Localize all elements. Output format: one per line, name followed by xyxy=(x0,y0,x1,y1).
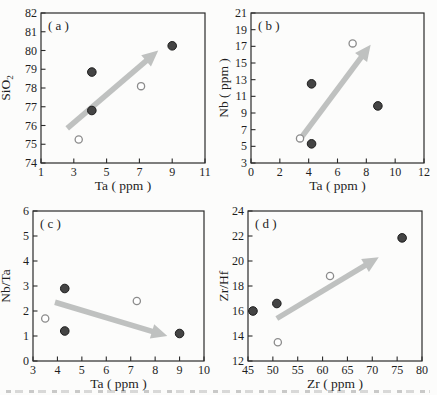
y-tick-label: 3 xyxy=(23,279,29,293)
panel-letter-label: ( b ) xyxy=(258,18,280,33)
x-tick-label: 60 xyxy=(317,363,329,377)
y-tick-label: 77 xyxy=(25,100,37,114)
data-point-open xyxy=(274,339,281,346)
data-point-open xyxy=(137,83,144,90)
x-tick-label: 8 xyxy=(363,165,369,179)
panel-letter-label: ( d ) xyxy=(255,216,277,231)
data-point-filled xyxy=(88,68,97,77)
y-tick-label: 11 xyxy=(235,89,247,103)
y-tick-label: 6 xyxy=(23,204,29,218)
y-tick-label: 1 xyxy=(23,329,29,343)
x-tick-label: 50 xyxy=(267,363,279,377)
x-tick-label: 65 xyxy=(341,363,353,377)
y-tick-label: 82 xyxy=(25,6,37,20)
x-axis-label: Ta ( ppm ) xyxy=(90,376,146,391)
plot-frame xyxy=(33,211,204,361)
cropped-caption-fragment xyxy=(6,390,430,393)
y-tick-label: 9 xyxy=(241,106,247,120)
x-tick-label: 80 xyxy=(416,363,428,377)
y-tick-label: 21 xyxy=(235,6,247,20)
x-axis-label: Zr ( ppm ) xyxy=(307,376,363,391)
y-axis-label: Nb ( ppm ) xyxy=(218,58,231,118)
y-tick-label: 4 xyxy=(23,254,29,268)
x-tick-label: 6 xyxy=(103,363,109,377)
y-tick-label: 22 xyxy=(232,229,244,243)
x-tick-label: 1 xyxy=(38,165,44,179)
plot-frame xyxy=(41,13,205,163)
x-tick-label: 10 xyxy=(198,363,210,377)
trend-arrow-shaft xyxy=(302,52,365,136)
panel-letter-label: ( a ) xyxy=(48,18,69,33)
y-tick-label: 3 xyxy=(241,156,247,170)
y-tick-label: 81 xyxy=(25,25,37,39)
data-point-open xyxy=(133,297,140,304)
data-point-filled xyxy=(175,329,184,338)
trend-arrow-shaft xyxy=(67,56,151,128)
y-tick-label: 15 xyxy=(235,56,247,70)
x-tick-label: 3 xyxy=(30,363,36,377)
y-tick-label: 76 xyxy=(25,119,37,133)
y-tick-label: 78 xyxy=(25,81,37,95)
data-point-filled xyxy=(398,234,407,243)
data-point-filled xyxy=(168,42,177,51)
x-tick-label: 5 xyxy=(79,363,85,377)
data-point-open xyxy=(75,136,82,143)
data-point-open xyxy=(296,135,303,142)
y-tick-label: 13 xyxy=(235,73,247,87)
x-tick-label: 4 xyxy=(54,363,60,377)
x-axis-label: Ta ( ppm ) xyxy=(309,178,365,193)
y-tick-label: 5 xyxy=(23,229,29,243)
y-tick-label: 20 xyxy=(232,254,244,268)
y-tick-label: 0 xyxy=(23,354,29,368)
chart-b-scatter: 0246810123579111315171921Ta ( ppm )Nb ( … xyxy=(218,0,437,198)
chart-c-scatter: 3456789100123456Ta ( ppm )Nb/Ta( c ) xyxy=(0,198,218,395)
panel-d: 455055606570758012141618202224Zr ( ppm )… xyxy=(218,198,437,395)
x-tick-label: 75 xyxy=(391,363,403,377)
figure-panel-grid: 1357911747576777879808182Ta ( ppm )SiO2(… xyxy=(0,0,437,395)
x-tick-label: 11 xyxy=(199,165,211,179)
x-tick-label: 10 xyxy=(389,165,401,179)
y-tick-label: 2 xyxy=(23,304,29,318)
panel-c: 3456789100123456Ta ( ppm )Nb/Ta( c ) xyxy=(0,198,218,395)
data-point-filled xyxy=(60,327,69,336)
x-tick-label: 55 xyxy=(292,363,304,377)
data-point-filled xyxy=(307,140,316,149)
x-tick-label: 3 xyxy=(71,165,77,179)
y-axis-label: Nb/Ta xyxy=(0,269,13,303)
data-point-open xyxy=(349,40,356,47)
x-tick-label: 0 xyxy=(248,165,254,179)
data-point-filled xyxy=(273,299,282,308)
trend-arrow-shaft xyxy=(277,262,371,319)
y-tick-label: 24 xyxy=(232,204,244,218)
y-tick-label: 18 xyxy=(232,279,244,293)
chart-d-scatter: 455055606570758012141618202224Zr ( ppm )… xyxy=(218,198,437,395)
data-point-filled xyxy=(374,102,383,111)
x-tick-label: 7 xyxy=(128,363,134,377)
x-tick-label: 4 xyxy=(306,165,312,179)
x-tick-label: 5 xyxy=(104,165,110,179)
y-tick-label: 79 xyxy=(25,62,37,76)
x-tick-label: 7 xyxy=(136,165,142,179)
x-tick-label: 2 xyxy=(277,165,283,179)
panel-b: 0246810123579111315171921Ta ( ppm )Nb ( … xyxy=(218,0,437,198)
x-tick-label: 6 xyxy=(335,165,341,179)
y-tick-label: 5 xyxy=(241,139,247,153)
y-tick-label: 16 xyxy=(232,304,244,318)
data-point-filled xyxy=(88,106,97,115)
y-tick-label: 75 xyxy=(25,137,37,151)
y-tick-label: 74 xyxy=(25,156,37,170)
x-tick-label: 9 xyxy=(177,363,183,377)
x-tick-label: 9 xyxy=(169,165,175,179)
data-point-open xyxy=(326,272,333,279)
y-tick-label: 7 xyxy=(241,123,247,137)
y-axis-label: Zr/Hf xyxy=(218,270,231,301)
data-point-open xyxy=(42,315,49,322)
data-point-filled xyxy=(249,307,258,316)
y-tick-label: 17 xyxy=(235,39,247,53)
trend-arrow-head xyxy=(150,324,167,338)
y-tick-label: 80 xyxy=(25,44,37,58)
x-tick-label: 8 xyxy=(152,363,158,377)
y-tick-label: 12 xyxy=(232,354,244,368)
panel-letter-label: ( c ) xyxy=(40,216,61,231)
x-tick-label: 12 xyxy=(418,165,430,179)
